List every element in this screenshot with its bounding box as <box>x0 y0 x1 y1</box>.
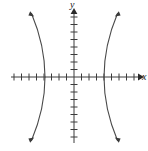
hyperbola-right-branch-upper <box>104 14 118 78</box>
hyperbola-left-branch-upper <box>32 14 46 78</box>
curve-arrowhead-lower-right-icon <box>115 138 121 143</box>
curve-arrowhead-lower-left-icon <box>28 138 34 143</box>
axes-group <box>11 8 144 143</box>
curve-arrowhead-upper-right-icon <box>115 11 121 16</box>
hyperbola-right-branch-lower <box>104 77 118 141</box>
plot-canvas <box>0 0 148 151</box>
y-axis-label: y <box>70 0 74 10</box>
x-axis-label: x <box>142 72 146 82</box>
curve-arrowhead-upper-left-icon <box>28 11 34 16</box>
hyperbola-left-branch-lower <box>32 77 46 141</box>
hyperbola-figure: y x <box>0 0 148 151</box>
